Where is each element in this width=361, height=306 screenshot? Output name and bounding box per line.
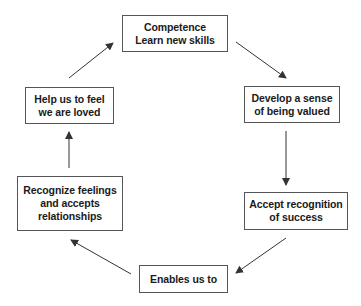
node-competence-line-2: Learn new skills (135, 34, 215, 47)
arrow-recognition-to-enables (236, 238, 286, 273)
node-feelings-line-3: relationships (38, 210, 102, 223)
arrow-competence-to-valued (236, 42, 286, 78)
node-loved-line-1: Help us to feel (34, 93, 104, 106)
node-feelings-line-2: and accepts (40, 197, 100, 210)
node-valued-line-1: Develop a sense (252, 92, 333, 105)
node-valued: Develop a sense of being valued (244, 86, 340, 123)
node-valued-line-2: of being valued (254, 105, 330, 118)
node-recognition-line-1: Accept recognition (249, 198, 342, 211)
cycle-diagram: Competence Learn new skills Develop a se… (0, 0, 361, 306)
arrow-enables-to-feelings (71, 240, 131, 274)
node-enables-line-1: Enables us to (150, 273, 217, 286)
node-recognition: Accept recognition of success (244, 192, 348, 230)
node-feelings: Recognize feelings and accepts relations… (17, 176, 123, 231)
arrow-loved-to-competence (69, 43, 113, 78)
node-loved-line-2: we are loved (39, 106, 101, 119)
node-feelings-line-1: Recognize feelings (23, 184, 116, 197)
node-competence: Competence Learn new skills (122, 15, 228, 52)
node-loved: Help us to feel we are loved (25, 87, 114, 124)
node-enables: Enables us to (139, 265, 228, 293)
node-competence-line-1: Competence (144, 21, 206, 34)
node-recognition-line-2: of success (269, 211, 322, 224)
